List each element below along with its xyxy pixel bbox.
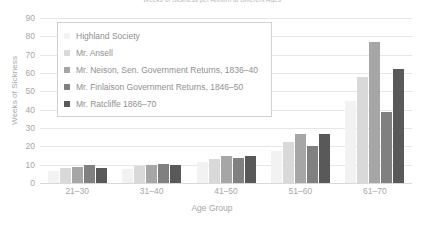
bar bbox=[345, 101, 356, 184]
y-axis-tick-label: 0 bbox=[30, 178, 35, 188]
x-axis-tick-label: 41–50 bbox=[189, 186, 263, 196]
bar bbox=[96, 168, 107, 183]
legend-label: Mr. Finlaison Government Returns, 1846–5… bbox=[76, 82, 243, 92]
bar bbox=[48, 171, 59, 183]
bar bbox=[233, 158, 244, 183]
legend-label: Mr. Neison, Sen. Government Returns, 183… bbox=[76, 65, 258, 75]
legend-item[interactable]: Mr. Ansell bbox=[64, 44, 265, 61]
x-axis-tick-label: 61–70 bbox=[338, 186, 412, 196]
y-axis-tick-label: 30 bbox=[26, 123, 35, 133]
bar bbox=[146, 165, 157, 183]
y-axis-tick-label: 20 bbox=[26, 141, 35, 151]
x-axis-tick-labels: 21–3031–4041–5051–6061–70 bbox=[40, 186, 412, 196]
y-axis-tick-label: 60 bbox=[26, 68, 35, 78]
legend-label: Mr. Ratcliffe 1866–70 bbox=[76, 99, 156, 109]
bar bbox=[170, 165, 181, 183]
bar bbox=[245, 156, 256, 184]
bar bbox=[295, 134, 306, 184]
legend-item[interactable]: Mr. Neison, Sen. Government Returns, 183… bbox=[64, 61, 265, 78]
bar bbox=[381, 112, 392, 184]
bar bbox=[72, 167, 83, 184]
x-axis-title: Age Group bbox=[0, 203, 424, 213]
x-axis-tick-label: 21–30 bbox=[40, 186, 114, 196]
bar bbox=[60, 168, 71, 183]
bar bbox=[209, 159, 220, 183]
legend-item[interactable]: Highland Society bbox=[64, 27, 265, 44]
bar bbox=[369, 42, 380, 183]
bar bbox=[221, 156, 232, 184]
legend-item[interactable]: Mr. Ratcliffe 1866–70 bbox=[64, 95, 265, 112]
legend-label: Highland Society bbox=[76, 31, 140, 41]
bar bbox=[134, 166, 145, 183]
bar bbox=[271, 151, 282, 183]
gridline: 0 bbox=[40, 183, 412, 184]
bar bbox=[158, 164, 169, 183]
legend-swatch-icon bbox=[64, 33, 70, 39]
bar bbox=[283, 142, 294, 183]
bar bbox=[84, 165, 95, 183]
y-axis-tick-label: 80 bbox=[26, 31, 35, 41]
bar bbox=[319, 134, 330, 184]
bar bbox=[357, 77, 368, 183]
bar bbox=[122, 169, 133, 183]
legend-swatch-icon bbox=[64, 84, 70, 90]
x-axis-tick-label: 51–60 bbox=[263, 186, 337, 196]
legend-swatch-icon bbox=[64, 50, 70, 56]
bar bbox=[393, 69, 404, 183]
legend-swatch-icon bbox=[64, 67, 70, 73]
legend-item[interactable]: Mr. Finlaison Government Returns, 1846–5… bbox=[64, 78, 265, 95]
y-axis-title: Weeks of Sickness bbox=[10, 36, 19, 146]
chart-legend: Highland SocietyMr. AnsellMr. Neison, Se… bbox=[57, 22, 272, 117]
chart-title: Weeks of Sickness per Annum at Different… bbox=[0, 0, 424, 3]
x-axis-tick-label: 31–40 bbox=[114, 186, 188, 196]
bar bbox=[307, 146, 318, 183]
legend-label: Mr. Ansell bbox=[76, 48, 113, 58]
chart-container: Weeks of Sickness per Annum at Different… bbox=[0, 0, 424, 229]
y-axis-tick-label: 50 bbox=[26, 86, 35, 96]
y-axis-tick-label: 40 bbox=[26, 105, 35, 115]
y-axis-tick-label: 10 bbox=[26, 160, 35, 170]
legend-swatch-icon bbox=[64, 101, 70, 107]
bar bbox=[197, 162, 208, 183]
bar-group bbox=[263, 18, 337, 183]
y-axis-tick-label: 70 bbox=[26, 50, 35, 60]
y-axis-tick-label: 90 bbox=[26, 13, 35, 23]
bar-group bbox=[338, 18, 412, 183]
